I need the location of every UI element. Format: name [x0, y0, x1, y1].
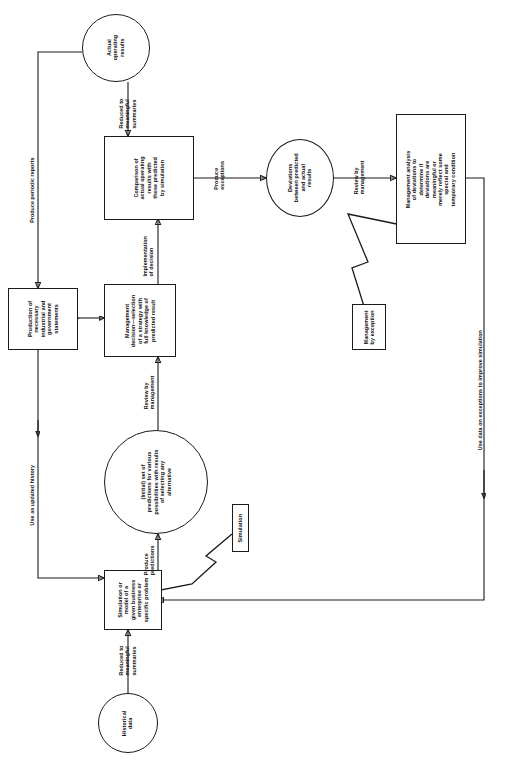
edge-label-review-by-management-top: Review by management [344, 152, 374, 202]
node-management-analysis: Management analysis of deviations to det… [396, 114, 466, 244]
node-label: Historical data [122, 710, 135, 736]
edge-label-use-data-on-exceptions: Use data on exceptions to improve simula… [470, 310, 490, 470]
edge-label-reduced-to-summaries-top: Reduced to meaningful summaries [110, 92, 146, 136]
edge-label-reduced-to-summaries-bottom: Reduced to meaningful summaries [110, 638, 146, 684]
edge-label-text: Produce predictions [144, 545, 157, 575]
edge-label-text: Implementation of decision [142, 236, 155, 277]
node-comparison: Comparison of actual operating results w… [104, 136, 194, 220]
node-management-decision: Management decision—selection of a strat… [104, 284, 176, 357]
edge-label-text: Review by management [353, 160, 366, 194]
node-label: Comparison of actual operating results w… [133, 156, 165, 199]
flowchart-canvas: Actual operating results Comparison of a… [0, 0, 514, 770]
edge-label-produce-predictions: Produce predictions [136, 540, 164, 580]
node-actual-operating-results: Actual operating results [82, 14, 150, 82]
edge-label-text: Use data on exceptions to improve simula… [477, 330, 483, 450]
node-deviations: Deviations between predicted and actual … [266, 139, 334, 217]
tag-label: Management by exception [363, 310, 376, 344]
edge-label-text: Reduced to meaningful summaries [118, 99, 137, 129]
node-label: Management analysis of deviations to det… [405, 150, 456, 208]
tag-management-by-exception: Management by exception [352, 304, 386, 350]
edge-label-text: Use as updated history [29, 465, 35, 525]
node-label: Production of necessary industrial and g… [27, 301, 59, 338]
node-production-statements: Production of necessary industrial and g… [8, 288, 78, 350]
node-historical-data: Historical data [98, 693, 158, 753]
edge-label-text: Review by management [143, 375, 156, 409]
edge-label-produce-periodic-reports: Produce periodic reports [22, 130, 42, 250]
edge-label-use-as-updated-history: Use as updated history [22, 440, 42, 550]
tag-simulation: Simulation [232, 504, 249, 552]
node-label: Deviations between predicted and actual … [287, 153, 313, 202]
edge-label-text: Reduced to meaningful summaries [118, 646, 137, 676]
node-initial-predictions: (Initial) set of predictions for various… [104, 430, 208, 534]
edge-label-review-by-management-lower: Review by management [134, 368, 164, 416]
node-label: Management decision—selection of a strat… [124, 294, 156, 346]
node-label: Simulation or model of a given business … [117, 578, 149, 622]
edge-label-text: Produce periodic reports [29, 157, 35, 222]
node-label: (Initial) set of predictions for various… [140, 449, 172, 514]
edge-label-produce-exceptions: Produce exceptions [204, 152, 234, 198]
edge-label-implementation-of-decision: Implementation of decision [132, 228, 164, 284]
tag-label: Simulation [237, 514, 243, 543]
edge-label-text: Produce exceptions [213, 161, 226, 190]
node-label: Actual operating results [106, 35, 125, 60]
